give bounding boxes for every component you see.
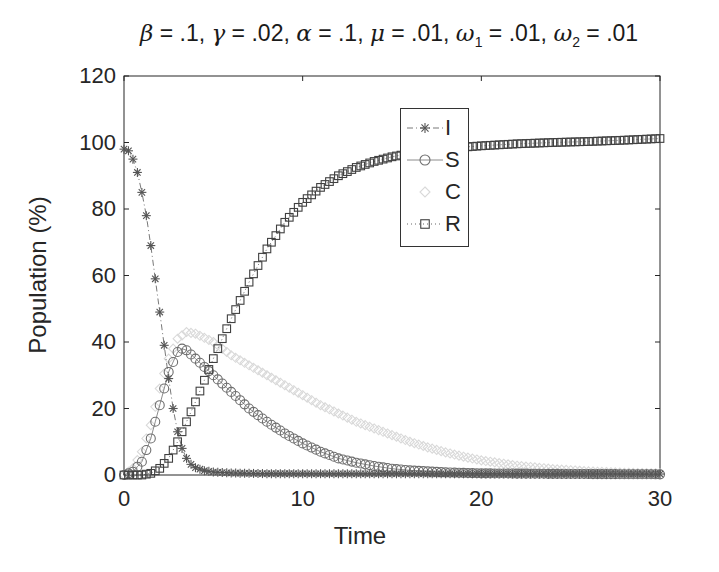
series-s bbox=[120, 344, 665, 479]
asterisk-marker-icon bbox=[405, 113, 445, 143]
y-tick-label: 20 bbox=[92, 396, 116, 422]
legend-item-c: C bbox=[401, 177, 468, 207]
y-tick-label: 0 bbox=[104, 462, 116, 488]
y-tick-label: 120 bbox=[79, 63, 116, 89]
circle-marker-icon bbox=[405, 145, 445, 175]
diamond-marker-icon bbox=[405, 177, 445, 207]
legend-label-s: S bbox=[445, 145, 460, 175]
legend-label-r: R bbox=[445, 209, 461, 239]
y-tick-label: 60 bbox=[92, 263, 116, 289]
x-tick-label: 30 bbox=[648, 486, 672, 512]
legend-label-i: I bbox=[445, 113, 451, 143]
x-tick-label: 20 bbox=[469, 486, 493, 512]
legend-label-c: C bbox=[445, 177, 461, 207]
square-marker-icon bbox=[405, 209, 445, 239]
chart-title: β = .1, γ = .02, α = .1, μ = .01, ω1 = .… bbox=[140, 20, 638, 50]
series-i bbox=[120, 145, 665, 479]
y-tick-label: 100 bbox=[79, 130, 116, 156]
x-axis-label: Time bbox=[334, 522, 386, 550]
x-tick-label: 0 bbox=[118, 486, 130, 512]
legend-item-i: I bbox=[401, 113, 468, 143]
y-tick-label: 80 bbox=[92, 196, 116, 222]
x-tick-label: 10 bbox=[290, 486, 314, 512]
legend: I S C R bbox=[400, 108, 469, 247]
series-r bbox=[120, 135, 664, 479]
legend-item-s: S bbox=[401, 145, 468, 175]
y-axis-label-text: Population (%) bbox=[24, 196, 52, 353]
series-c bbox=[120, 328, 665, 480]
y-tick-label: 40 bbox=[92, 329, 116, 355]
legend-item-r: R bbox=[401, 209, 468, 239]
